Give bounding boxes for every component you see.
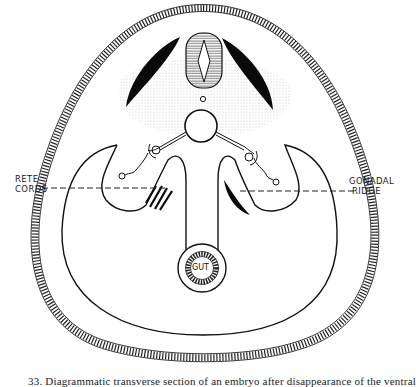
rete-cords-structure [146,186,172,210]
figure-caption: 33. Diagrammatic transverse section of a… [28,375,408,387]
coelom-cavity [62,145,337,335]
neural-tube [186,33,222,88]
gonadal-ridge-label-line1: GONADAL [349,176,394,186]
gonadal-ridge-label-line2: RIDGE [352,186,381,196]
rete-cords-label-line2: CORDS [15,184,47,194]
gut-label: GUT [192,263,209,272]
aorta [185,110,217,142]
rete-cords-label-line1: RETE [15,174,38,184]
notochord [200,96,205,101]
